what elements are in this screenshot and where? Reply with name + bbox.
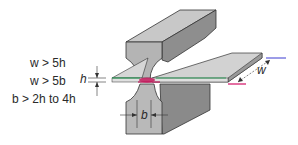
label-h: h — [80, 72, 87, 86]
label-w: w — [257, 63, 266, 77]
lower-electrode-side — [160, 84, 210, 134]
welding-diagram — [0, 0, 298, 145]
label-b: b — [141, 108, 148, 122]
